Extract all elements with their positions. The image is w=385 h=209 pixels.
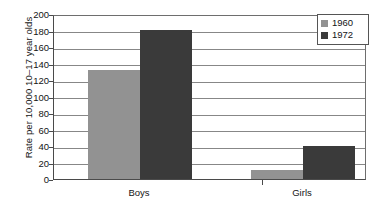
- y-tick-label: 80: [5, 109, 49, 119]
- bar-girls-1960: [251, 170, 303, 179]
- bar-boys-1972: [140, 30, 192, 179]
- legend-item-1960[interactable]: 1960: [321, 17, 365, 29]
- y-tick-label: 60: [5, 126, 49, 136]
- legend-swatch-1960-icon: [321, 20, 328, 27]
- y-tick-label: 140: [5, 60, 49, 70]
- bar-chart: Rate per 10,000 10–17 year olds 20018016…: [0, 0, 385, 209]
- y-tick-label: 100: [5, 93, 49, 103]
- y-tick-label: 200: [5, 10, 49, 20]
- chart-legend: 19601972: [317, 14, 369, 45]
- y-tick-label: 0: [5, 175, 49, 185]
- y-tick-mark: [49, 180, 53, 181]
- y-axis-tick-labels: 200180160140120100806040200: [0, 0, 49, 209]
- y-tick-label: 20: [5, 159, 49, 169]
- legend-item-1972[interactable]: 1972: [321, 29, 365, 41]
- category-label-girls: Girls: [262, 187, 342, 198]
- legend-label-1960: 1960: [332, 18, 353, 28]
- y-tick-label: 120: [5, 76, 49, 86]
- category-label-boys: Boys: [99, 187, 179, 198]
- gridline: [54, 49, 365, 50]
- y-tick-label: 180: [5, 27, 49, 37]
- category-axis-tick: [262, 180, 263, 185]
- y-tick-label: 40: [5, 142, 49, 152]
- bar-girls-1972: [303, 146, 355, 179]
- legend-swatch-1972-icon: [321, 32, 328, 39]
- bar-boys-1960: [88, 70, 140, 179]
- legend-label-1972: 1972: [332, 30, 353, 40]
- y-tick-label: 160: [5, 43, 49, 53]
- gridline: [54, 65, 365, 66]
